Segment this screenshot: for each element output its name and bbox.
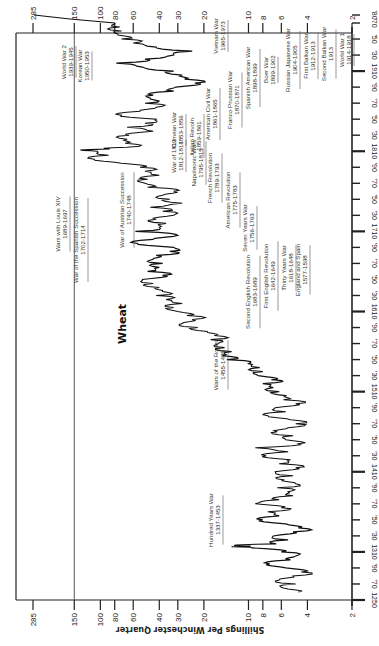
- war-name: War of the Spanish Succession: [72, 197, 79, 283]
- war-name: Italian Revoln.: [188, 116, 195, 155]
- year-tick-label: 1250: [371, 592, 378, 608]
- war-name: Second English Revolution: [244, 254, 251, 329]
- year-tick-label: '90: [371, 163, 378, 172]
- war-annotation: Boer War1899-1902: [262, 55, 278, 85]
- year-tick-label: '50: [371, 275, 378, 284]
- year-tick-label: '50: [371, 195, 378, 204]
- war-years: 1702-1714: [79, 225, 86, 255]
- war-years: 1795-1815: [197, 148, 204, 178]
- year-tick-label: '80: [371, 10, 378, 19]
- year-tick-label: '70: [371, 339, 378, 348]
- year-tick-label: '70: [371, 419, 378, 428]
- war-years: 1853-1856: [177, 115, 184, 145]
- year-tick-label: '30: [371, 451, 378, 460]
- year-tick-label: '30: [371, 131, 378, 140]
- year-tick-label: '90: [371, 83, 378, 92]
- year-tick-label: 1610: [371, 304, 378, 320]
- price-tick-label: 150: [70, 612, 79, 626]
- war-name: Vietnam War: [212, 18, 219, 53]
- war-name: First English Revolution: [262, 243, 269, 309]
- year-tick-label: 1910: [371, 63, 378, 79]
- year-tick-label: '30: [371, 371, 378, 380]
- year-tick-label: 1310: [371, 544, 378, 560]
- war-years: 1689-1697: [61, 209, 68, 239]
- year-tick-label: 1410: [371, 464, 378, 480]
- price-tick-label: 8: [259, 612, 268, 617]
- year-tick-label: '70: [371, 179, 378, 188]
- war-years: 1861-1865: [211, 99, 218, 129]
- year-tick-label: '90: [371, 323, 378, 332]
- year-tick-label: 1710: [371, 224, 378, 240]
- price-tick-label: 4: [303, 612, 312, 617]
- price-tick-label: 6: [277, 15, 286, 20]
- price-tick-label: 80: [111, 612, 120, 621]
- war-annotation: World War 21939-1945: [60, 44, 76, 79]
- war-annotation: Vietnam War1965-1973: [212, 18, 228, 53]
- price-tick-label: 10: [244, 11, 253, 20]
- war-years: 1898-1899: [251, 63, 258, 93]
- war-name: England and Spain: [294, 243, 301, 296]
- price-tick-label: 30: [174, 11, 183, 20]
- war-name: American Revolution: [224, 171, 231, 229]
- price-tick-label: 40: [155, 612, 164, 621]
- war-years: 1683-1689: [251, 277, 258, 307]
- war-years: 1870-1871: [233, 85, 240, 115]
- year-tick-label: '90: [371, 403, 378, 412]
- year-tick-label: '70: [371, 99, 378, 108]
- war-name: Hundred Years War: [207, 493, 214, 547]
- war-years: 1740-1748: [125, 195, 132, 225]
- war-name: Seven Years War: [241, 204, 248, 252]
- year-tick-label: '50: [371, 435, 378, 444]
- war-name: Thirty Years War: [280, 245, 287, 291]
- year-tick-label: '30: [371, 211, 378, 220]
- year-tick-label: '30: [371, 51, 378, 60]
- price-tick-label: 20: [200, 612, 209, 621]
- war-annotation: Korean War1950-1953: [76, 50, 92, 83]
- price-tick-label: 285: [29, 6, 38, 20]
- war-name: Franco Prussian War: [226, 71, 233, 129]
- year-tick-label: '50: [371, 115, 378, 124]
- series-label-wheat: Wheat: [116, 304, 129, 344]
- war-years: 1914-1918: [345, 35, 352, 65]
- war-years: 1577-1598: [301, 255, 308, 285]
- year-tick-label: '90: [371, 243, 378, 252]
- price-tick-label: 20: [200, 11, 209, 20]
- war-years: 1618-1648: [287, 253, 294, 283]
- war-years: 1775-1783: [231, 185, 238, 215]
- war-name: World War 1: [338, 32, 345, 67]
- price-tick-label: 30: [174, 612, 183, 621]
- year-tick-label: '70: [371, 259, 378, 268]
- year-tick-label: '90: [371, 563, 378, 572]
- war-name: Spanish American War: [244, 47, 251, 110]
- year-tick-label: '70: [371, 499, 378, 508]
- war-name: World War 2: [60, 44, 67, 79]
- war-name: Second Balkan War: [320, 27, 327, 81]
- war-name: Korean War: [76, 50, 83, 83]
- year-tick-label: '30: [371, 291, 378, 300]
- war-name: French Revolution: [206, 152, 213, 203]
- year-tick-label: '70: [371, 18, 378, 27]
- war-name: Russian Japanese War: [284, 28, 291, 92]
- year-tick-label: 1510: [371, 384, 378, 400]
- war-years: 1904-1905: [291, 45, 298, 75]
- war-annotation: World War 11914-1918: [338, 32, 354, 67]
- price-axis-title: Shillings Per Winchester Quarter: [116, 625, 264, 634]
- war-name: Wars with Louis XIV: [54, 196, 61, 252]
- wheat-price-chart: 2851501008060403020108642 28515010080604…: [0, 0, 379, 646]
- war-years: 1455-1485: [219, 350, 226, 380]
- price-tick-label: 8: [259, 15, 268, 20]
- price-tick-label: 100: [96, 612, 105, 626]
- year-tick-label: '90: [371, 483, 378, 492]
- war-name: Wars of the Roses: [212, 340, 219, 391]
- war-years: 1337-1453: [214, 505, 221, 535]
- war-years: 1756-1763: [248, 213, 255, 243]
- price-tick-label: 80: [111, 11, 120, 20]
- war-years: 1912-1913: [309, 41, 316, 71]
- price-tick-label: 150: [70, 6, 79, 20]
- price-tick-label: 40: [155, 11, 164, 20]
- war-name: War of Austrian Succession: [118, 172, 125, 248]
- price-tick-label: 100: [96, 6, 105, 20]
- price-tick-label: 60: [129, 612, 138, 621]
- war-name: Crimean War: [170, 112, 177, 148]
- war-name: Boer War: [262, 57, 269, 83]
